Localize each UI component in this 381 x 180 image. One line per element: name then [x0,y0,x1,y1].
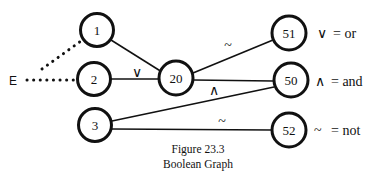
figure-caption-number: Figure 23.3 [171,143,224,156]
node-3-label: 3 [92,118,99,133]
node-1: 1 [81,14,114,47]
edge-label-or: ∨ [132,65,142,80]
legend-not-symbol: ~ [314,123,322,138]
legend-or-symbol: ∨ [317,26,327,41]
node-50: 50 [274,63,308,97]
legend-or-meaning: = or [333,26,356,41]
edge-label-not-52: ~ [218,114,226,129]
node-2-label: 2 [91,72,98,87]
edge-label-not-51: ~ [224,38,232,53]
node-51: 51 [272,16,306,50]
node-50-label: 50 [285,73,298,88]
node-3: 3 [79,109,112,142]
node-52-label: 52 [283,123,296,138]
boolean-graph-figure: 1 2 3 20 50 51 52 E ∨ ~ ∧ ~ ∨ = or ∧ = a… [0,0,381,180]
legend-and-meaning: = and [331,74,363,89]
legend: ∨ = or ∧ = and ~ = not [314,26,363,138]
entry-edge-to-1 [42,41,81,69]
legend-not-meaning: = not [331,123,360,138]
entry-edges [27,41,81,80]
node-20: 20 [159,61,193,95]
entry-label: E [9,74,17,88]
node-1-label: 1 [94,23,101,38]
edge-20-50 [194,80,273,81]
node-52: 52 [272,113,306,147]
node-20-label: 20 [170,71,183,86]
edge-label-and: ∧ [209,83,219,98]
edge-3-52 [112,129,272,130]
node-51-label: 51 [283,26,296,41]
edge-20-51 [193,40,273,73]
node-2: 2 [78,63,111,96]
figure-caption-title: Boolean Graph [163,158,233,171]
edge-3-50 [112,87,274,121]
legend-and-symbol: ∧ [315,74,325,89]
